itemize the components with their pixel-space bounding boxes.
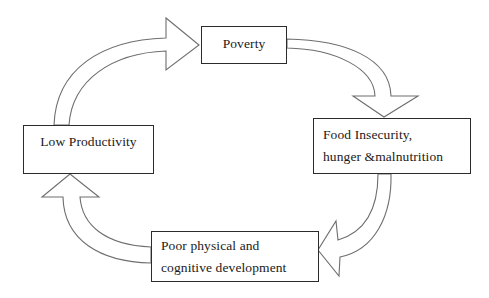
node-poverty: Poverty (201, 26, 287, 64)
node-label-line-2: hunger &malnutrition (323, 146, 470, 168)
node-label: Poverty (202, 33, 286, 55)
node-low-productivity: Low Productivity (23, 125, 154, 174)
node-label-line-1: Poor physical and (161, 235, 318, 257)
node-food-insecurity: Food Insecurity, hunger &malnutrition (313, 118, 471, 174)
node-label: Low Productivity (24, 131, 153, 153)
arrow-food-to-poordevelopment (318, 174, 391, 276)
arrow-poverty-to-food (287, 39, 418, 117)
node-label-line-1: Food Insecurity, (323, 124, 470, 146)
node-poor-development: Poor physical and cognitive development (151, 231, 319, 282)
arrow-poordevelopment-to-lowproductivity (42, 174, 151, 263)
arrow-lowproductivity-to-poverty (54, 18, 199, 125)
node-label-line-2: cognitive development (161, 257, 318, 279)
